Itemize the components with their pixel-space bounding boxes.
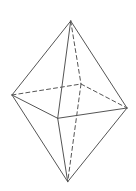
edge-back-right [81, 84, 127, 108]
visible-edges [12, 21, 127, 182]
octahedron-diagram [0, 0, 136, 191]
hidden-edges [12, 21, 127, 182]
edge-top-back [71, 21, 81, 84]
edge-front-bottom [58, 118, 68, 181]
edge-left-front [12, 95, 58, 118]
edge-front-right [58, 108, 127, 118]
edge-left-back [12, 84, 81, 95]
